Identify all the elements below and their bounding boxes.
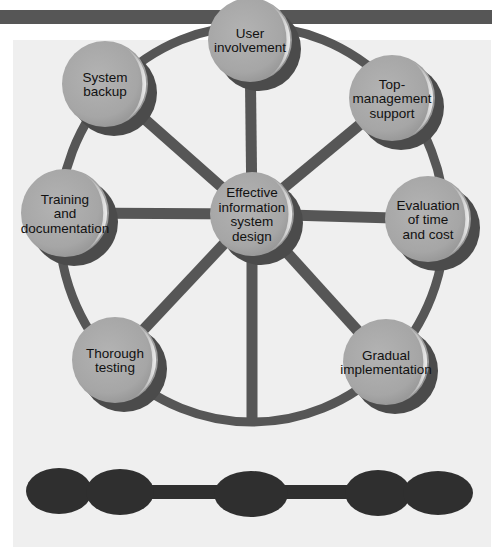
diagram-canvas: UserinvolvementTop-managementsupportEval… xyxy=(0,0,502,558)
chain-ellipse-3 xyxy=(214,471,288,517)
node-gradual-implementation: Gradualimplementation xyxy=(340,319,438,414)
chain-ellipse-5 xyxy=(403,471,473,515)
node-user-involvement: Userinvolvement xyxy=(208,0,301,91)
node-label: Systembackup xyxy=(82,70,127,100)
wheel-diagram: UserinvolvementTop-managementsupportEval… xyxy=(0,0,502,558)
bottom-chain-shape xyxy=(26,468,473,517)
node-evaluation-of-time-and-cost: Evaluationof timeand cost xyxy=(385,176,480,271)
chain-ellipse-4 xyxy=(345,470,411,516)
chain-ellipse-1 xyxy=(26,468,92,514)
chain-ellipse-2 xyxy=(86,469,154,515)
node-top-management-support: Top-managementsupport xyxy=(349,55,444,150)
node-training-and-documentation: Traininganddocumentation xyxy=(21,169,118,266)
node-thorough-testing: Thoroughtesting xyxy=(72,317,167,412)
